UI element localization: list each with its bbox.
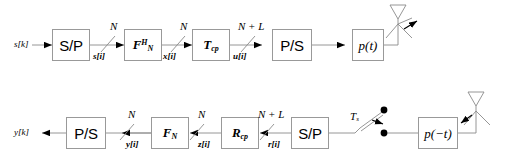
tx-input-label: s[k] — [14, 40, 29, 49]
sampling-period-subscript: s — [356, 115, 359, 123]
tx-bus-width-2: N — [180, 21, 187, 32]
wire-pt-to-antenna — [383, 30, 398, 45]
rx-bus-width-3: N + L — [258, 109, 284, 120]
tx-cp-subscript: cp — [211, 44, 219, 53]
tx-ifft-block[interactable]: FHN — [124, 29, 162, 61]
sampler-terminal-top — [381, 107, 388, 114]
tx-ifft-subscript: N — [148, 44, 154, 53]
tx-pt-label: p(t) — [359, 39, 378, 52]
rx-cp-subscript: cp — [241, 132, 249, 141]
rx-ps-label: P/S — [74, 126, 97, 141]
tx-radiation-arrow — [404, 21, 417, 29]
tx-bus-width-3: N + L — [238, 21, 264, 32]
bus-slash-rx-1 — [120, 124, 134, 140]
sampler-switch — [355, 112, 383, 133]
rx-output-label: y[k] — [14, 128, 29, 137]
tx-ifft-label: FHN — [133, 38, 154, 53]
tx-signal-x-i: x[i] — [163, 52, 176, 61]
rx-parallel-to-serial-block[interactable]: P/S — [66, 117, 106, 149]
bus-slash-rx-2 — [190, 124, 204, 140]
rx-cp-symbol: R — [232, 125, 241, 140]
rx-cyclic-prefix-removal-block[interactable]: Rcp — [221, 117, 259, 149]
transmit-antenna — [386, 5, 412, 38]
tx-pulse-shaping-block[interactable]: p(t) — [352, 29, 384, 61]
tx-cp-label: Tcp — [203, 38, 219, 53]
tx-cyclic-prefix-block[interactable]: Tcp — [192, 29, 230, 61]
block-diagram-canvas: S/P FHN Tcp P/S p(t) s[k] s[i] x[i] u[i]… — [0, 0, 521, 156]
rx-bus-width-1: N — [128, 109, 135, 120]
rx-signal-z-i: z[i] — [198, 140, 210, 149]
rx-sp-label: S/P — [298, 126, 321, 141]
rx-radiation-arrow — [461, 115, 472, 123]
tx-parallel-to-serial-block[interactable]: P/S — [272, 29, 312, 61]
receive-antenna — [464, 92, 490, 125]
rx-fft-subscript: N — [171, 132, 177, 141]
rx-signal-r-i: r[i] — [268, 140, 280, 149]
tx-sp-label: S/P — [59, 38, 82, 53]
wire-antenna-to-pt — [457, 118, 476, 133]
tx-serial-to-parallel-block[interactable]: S/P — [52, 29, 90, 61]
rx-cp-label: Rcp — [232, 126, 248, 141]
bus-slash-tx-3 — [241, 36, 255, 52]
bus-slash-tx-2 — [171, 36, 185, 52]
rx-fft-label: FN — [163, 126, 177, 141]
bus-slash-tx-1 — [101, 36, 115, 52]
tx-bus-width-1: N — [110, 21, 117, 32]
sampler-terminal-bottom — [381, 130, 388, 137]
bus-slash-rx-3 — [260, 124, 274, 140]
rx-matched-filter-block[interactable]: p(−t) — [418, 117, 458, 149]
rx-pt-label: p(−t) — [424, 127, 452, 140]
tx-ps-label: P/S — [280, 38, 303, 53]
rx-signal-y-i: y[i] — [126, 140, 139, 149]
tx-signal-s-i: s[i] — [93, 52, 105, 61]
tx-cp-symbol: T — [203, 37, 211, 52]
tx-signal-u-i: u[i] — [233, 52, 247, 61]
rx-fft-block[interactable]: FN — [151, 117, 189, 149]
sampler-direction-arrow — [372, 120, 383, 124]
rx-bus-width-2: N — [198, 109, 205, 120]
rx-serial-to-parallel-block[interactable]: S/P — [291, 117, 329, 149]
sampling-period-label: Ts — [350, 111, 359, 123]
